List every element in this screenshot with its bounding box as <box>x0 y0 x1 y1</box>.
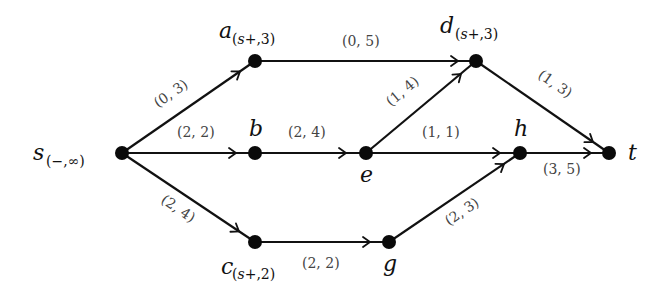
node-a <box>248 54 262 68</box>
edge-label-e-h: (1, 1) <box>422 124 460 140</box>
node-h <box>513 146 527 160</box>
flow-network-diagram: s (−,∞) a (s+,3) d (s+,3) c (s+,2) b e g… <box>0 0 667 298</box>
edge-g-h <box>389 153 520 242</box>
node-label-t: t <box>628 140 637 165</box>
node-s <box>115 146 129 160</box>
node-d <box>469 54 483 68</box>
node-label-h: h <box>514 116 528 141</box>
node-e <box>359 146 373 160</box>
node-label-a: a <box>219 18 232 43</box>
edge-label-h-t: (3, 5) <box>543 161 581 177</box>
edge-label-s-a: (0, 3) <box>151 76 191 111</box>
edge-label-c-g: (2, 2) <box>302 255 340 271</box>
node-g <box>382 235 396 249</box>
node-sublabel-s: (−,∞) <box>46 153 85 169</box>
node-t <box>602 146 616 160</box>
edge-label-s-c: (2, 4) <box>158 191 198 225</box>
edge-label-a-d: (0, 5) <box>342 33 380 49</box>
node-label-s: s <box>33 140 44 165</box>
node-sublabel-c: (s+,2) <box>232 266 275 282</box>
node-label-d: d <box>440 13 454 38</box>
node-sublabel-d: (s+,3) <box>455 26 498 42</box>
edge-label-d-t: (1, 3) <box>535 66 575 101</box>
node-label-e: e <box>360 162 373 187</box>
edge-label-g-h: (2, 3) <box>442 194 482 228</box>
node-label-b: b <box>249 116 263 141</box>
node-label-g: g <box>383 251 397 276</box>
edge-s-c <box>122 153 255 242</box>
node-sublabel-a: (s+,3) <box>232 31 275 47</box>
node-b <box>248 146 262 160</box>
edge-label-e-d: (1, 4) <box>383 73 422 109</box>
node-c <box>248 235 262 249</box>
edge-label-s-b: (2, 2) <box>177 124 215 140</box>
edge-label-b-e: (2, 4) <box>288 124 326 140</box>
